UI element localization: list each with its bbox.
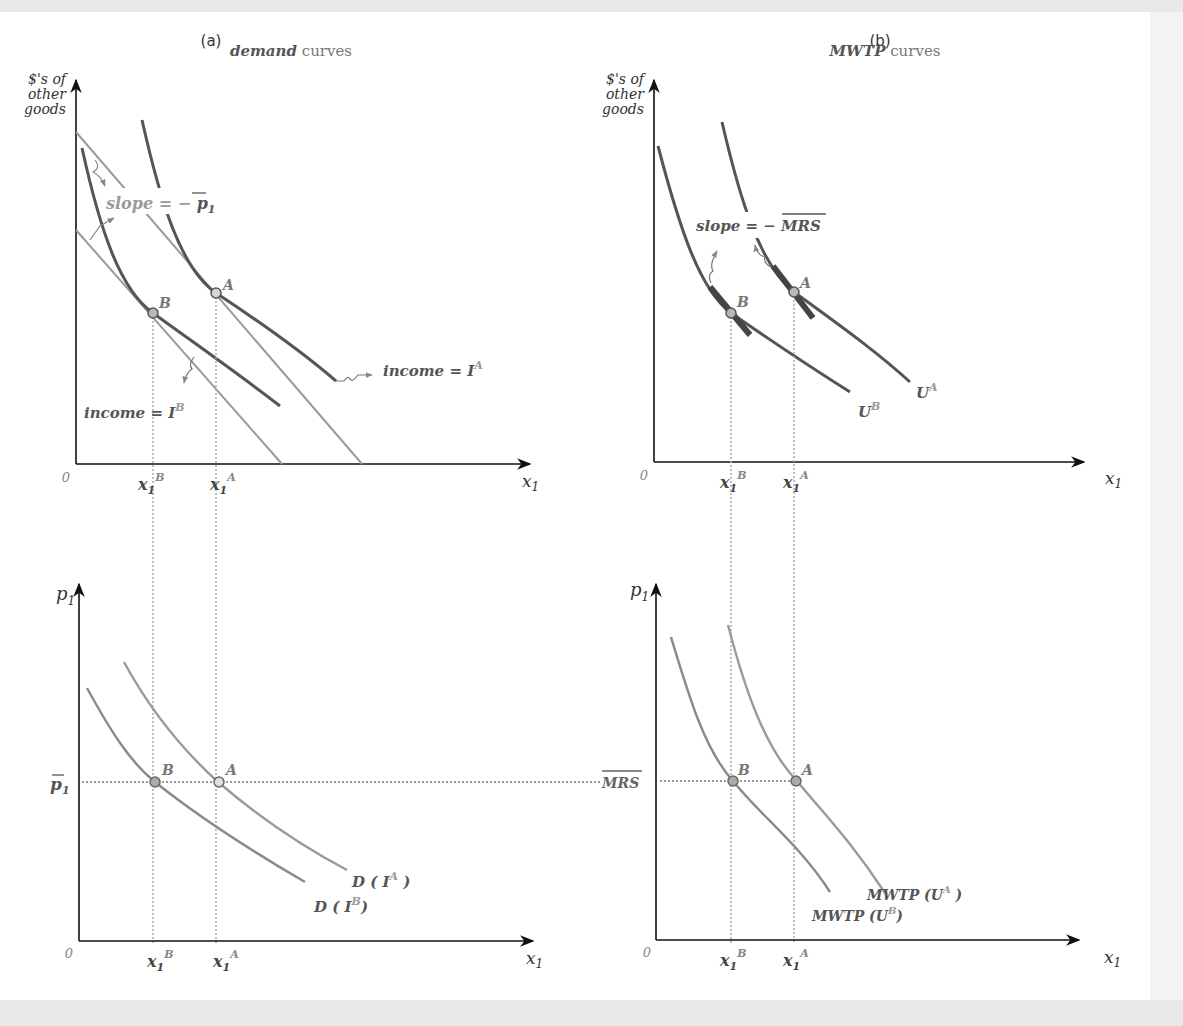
slope-arrow-B-icon xyxy=(709,251,717,283)
point-B-a-top xyxy=(148,308,158,318)
tick-x1A-b: x1A xyxy=(782,469,809,495)
svg-text:$'s of: $'s of xyxy=(28,71,69,87)
point-A-label: A xyxy=(221,277,234,293)
budget-line-income-B xyxy=(76,230,282,464)
panel-a-letter: (a) xyxy=(201,32,222,50)
point-A-a-top xyxy=(211,288,221,298)
point-A-label-b-bottom: A xyxy=(800,762,813,778)
y-axis-label-other-goods-b: $'s of other goods xyxy=(602,71,647,117)
tick-x1B-a: x1B xyxy=(137,471,165,497)
tick-x1A-a-bottom: x1A xyxy=(212,948,239,974)
origin-label-b: 0 xyxy=(640,468,648,483)
point-A-b-bottom xyxy=(791,776,801,786)
point-B-label-a-bottom: B xyxy=(161,762,174,778)
point-A-label-a-bottom: A xyxy=(224,762,237,778)
panel-a-title: demand curves xyxy=(230,42,352,60)
tick-x1B-b: x1B xyxy=(719,469,747,495)
income-B-label: income = IB xyxy=(84,401,185,422)
point-A-label-b: A xyxy=(798,275,811,291)
income-A-arrow-icon xyxy=(336,375,372,381)
panel-b-top: (b) MWTP curves $'s of other goods 0 x1 … xyxy=(602,32,1122,944)
y-axis-label-p1-a: p1 xyxy=(56,583,75,608)
tick-mrs-bar: MRS xyxy=(601,775,639,791)
panel-a-title-rest: curves xyxy=(297,42,352,60)
point-A-b-top xyxy=(789,287,799,297)
origin-label-b-bottom: 0 xyxy=(643,945,651,960)
panel-a-bottom: p1 0 x1 p1 B A D ( IA ) D ( IB) x1B x1A xyxy=(50,583,600,974)
tick-p1-bar: p1 xyxy=(50,774,70,797)
slope-label-b: slope = − MRS xyxy=(696,217,821,235)
UB-label: UB xyxy=(858,400,880,421)
indifference-curve-UA xyxy=(722,122,910,382)
x-axis-label-b-bottom: x1 xyxy=(1104,947,1121,970)
income-A-label: income = IA xyxy=(383,359,483,380)
slope-label-a: slope = − p1 xyxy=(105,194,216,216)
indifference-curve-B xyxy=(82,148,280,406)
tick-x1B-b-bottom: x1B xyxy=(719,947,747,973)
point-B-label: B xyxy=(158,295,171,311)
svg-text:$'s of: $'s of xyxy=(606,71,647,87)
panel-a-title-bold: demand xyxy=(230,42,298,60)
demand-IB-label: D ( IB) xyxy=(313,895,368,916)
UA-label: UA xyxy=(916,381,938,402)
x-axis-label-b: x1 xyxy=(1105,468,1122,491)
point-B-a-bottom xyxy=(150,777,160,787)
mwtp-UA-label: MWTP (UA ) xyxy=(866,884,962,903)
panel-a-top: (a) demand curves $'s of other goods 0 x… xyxy=(24,32,539,944)
tick-x1A-a: x1A xyxy=(209,471,236,497)
point-A-a-bottom xyxy=(214,777,224,787)
point-B-label-b: B xyxy=(736,294,749,310)
origin-label: 0 xyxy=(62,470,70,485)
demand-IA-label: D ( IA ) xyxy=(351,870,410,891)
svg-text:goods: goods xyxy=(24,101,66,117)
origin-label-a-bottom: 0 xyxy=(65,946,73,961)
tick-x1B-a-bottom: x1B xyxy=(146,948,174,974)
svg-text:other: other xyxy=(28,86,67,102)
indifference-curve-UB xyxy=(658,146,850,392)
mwtp-UB-label: MWTP (UB) xyxy=(811,905,903,924)
svg-text:other: other xyxy=(606,86,645,102)
point-B-label-b-bottom: B xyxy=(737,762,750,778)
point-B-b-bottom xyxy=(728,776,738,786)
economics-diagram: (a) demand curves $'s of other goods 0 x… xyxy=(0,0,1183,1026)
x-axis-label-a-bottom: x1 xyxy=(526,948,543,971)
x-axis-label: x1 xyxy=(522,471,539,494)
mwtp-curve-UA xyxy=(728,625,885,893)
svg-text:goods: goods xyxy=(602,101,644,117)
tick-x1A-b-bottom: x1A xyxy=(782,947,809,973)
demand-curve-IB xyxy=(87,688,305,882)
panel-b-title: MWTP curves xyxy=(829,42,941,60)
y-axis-label-other-goods-a: $'s of other goods xyxy=(24,71,69,117)
panel-b-bottom: p1 0 x1 MRS B A MWTP (UA ) MWTP (UB) x1B… xyxy=(600,579,1121,973)
y-axis-label-p1-b: p1 xyxy=(630,579,649,604)
point-B-b-top xyxy=(726,308,736,318)
indifference-curve-A xyxy=(142,120,336,381)
